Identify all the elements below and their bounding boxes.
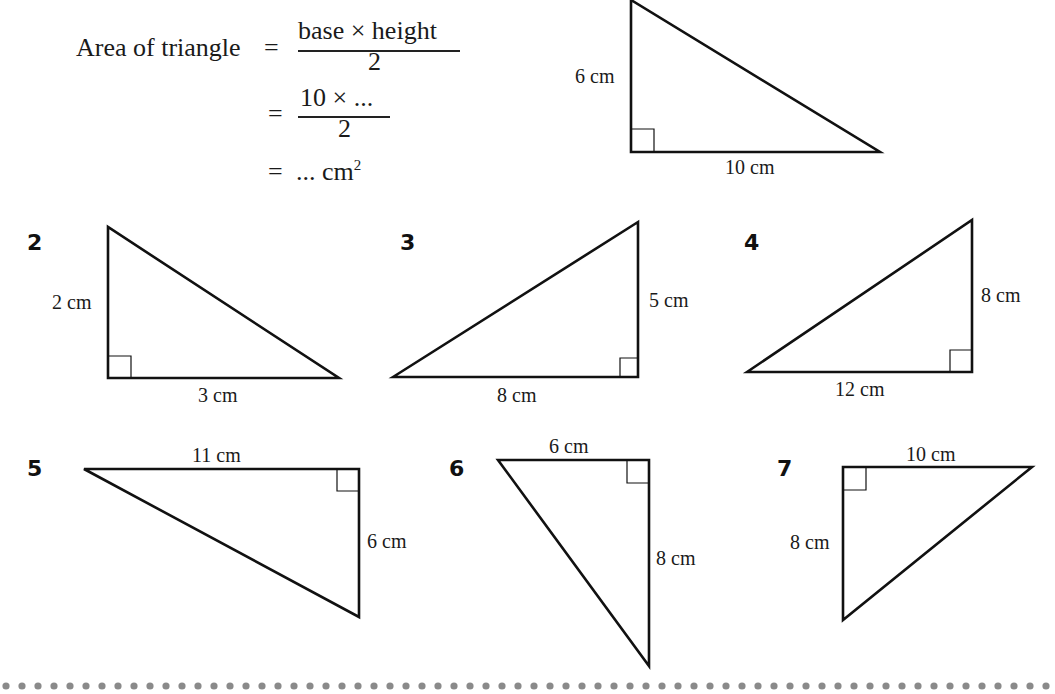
example-triangle — [631, 0, 880, 152]
q4-base-label: 12 cm — [835, 378, 884, 401]
q7-side-label: 8 cm — [790, 531, 829, 554]
question-number-2: 2 — [27, 230, 42, 255]
q6-top-label: 6 cm — [549, 435, 588, 458]
example-base-label: 10 cm — [725, 156, 774, 179]
triangle-5 — [84, 469, 359, 617]
question-number-3: 3 — [400, 230, 415, 255]
question-number-5: 5 — [27, 456, 42, 481]
dotted-divider — [0, 680, 1055, 694]
q5-top-label: 11 cm — [192, 444, 241, 467]
question-number-7: 7 — [777, 456, 792, 481]
right-angle-marker-3 — [620, 358, 638, 377]
triangle-figures — [0, 0, 1055, 694]
triangle-7 — [843, 467, 1032, 620]
triangle-4 — [747, 220, 972, 372]
q6-side-label: 8 cm — [656, 547, 695, 570]
q3-base-label: 8 cm — [497, 384, 536, 407]
right-angle-marker-7 — [843, 467, 866, 490]
q2-base-label: 3 cm — [198, 384, 237, 407]
question-number-6: 6 — [449, 456, 464, 481]
right-angle-marker-example — [631, 129, 654, 152]
question-number-4: 4 — [744, 230, 759, 255]
right-angle-marker-5 — [337, 469, 359, 491]
q5-side-label: 6 cm — [367, 530, 406, 553]
right-angle-marker-4 — [950, 350, 972, 372]
right-angle-marker-2 — [108, 356, 131, 378]
triangle-2 — [108, 227, 339, 378]
q2-height-label: 2 cm — [52, 291, 91, 314]
example-height-label: 6 cm — [575, 65, 614, 88]
right-angle-marker-6 — [627, 460, 649, 483]
triangle-6 — [498, 460, 649, 666]
triangle-3 — [393, 222, 638, 377]
q7-top-label: 10 cm — [906, 443, 955, 466]
q4-height-label: 8 cm — [981, 284, 1020, 307]
q3-height-label: 5 cm — [649, 289, 688, 312]
